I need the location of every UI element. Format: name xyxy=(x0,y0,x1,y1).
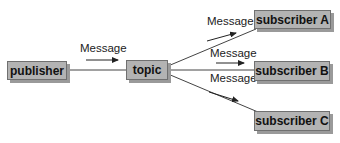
subscriber-b-node: subscriber B xyxy=(254,61,330,81)
edge-label-subscriber-a: Message xyxy=(207,15,254,27)
edge-label-subscriber-c: Message xyxy=(210,72,257,84)
edge-label-subscriber-b: Message xyxy=(210,47,257,59)
publisher-node: publisher xyxy=(7,61,67,80)
arrow-icon xyxy=(207,33,236,41)
edge-label-publisher-topic: Message xyxy=(80,42,127,54)
arrow-icon xyxy=(209,92,238,101)
topic-node: topic xyxy=(126,60,168,80)
subscriber-a-node: subscriber A xyxy=(254,10,331,29)
subscriber-c-node: subscriber C xyxy=(254,111,330,131)
